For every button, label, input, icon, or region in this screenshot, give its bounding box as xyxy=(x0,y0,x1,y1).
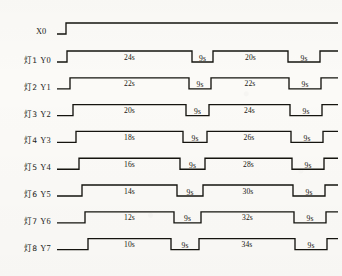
duration-y6-3: 32s xyxy=(242,213,253,222)
duration-y0-1: 24s xyxy=(124,52,135,61)
duration-y1-3: 22s xyxy=(245,79,256,88)
waveform-path-y5 xyxy=(57,185,338,196)
duration-y3-3: 26s xyxy=(244,132,255,141)
duration-y5-4: 9s xyxy=(306,187,313,196)
duration-y6-1: 12s xyxy=(124,213,135,222)
duration-y7-4: 9s xyxy=(308,241,315,250)
timing-diagram: X0 灯1Y0灯2Y1灯3Y2灯4Y3灯5Y4灯6Y5灯7Y6灯8Y7 24s9… xyxy=(0,0,342,276)
waveform-path-y6 xyxy=(57,212,338,223)
duration-y4-1: 16s xyxy=(124,159,135,168)
waveform-path-y4 xyxy=(57,158,338,169)
waveform-path-y7 xyxy=(57,239,338,250)
duration-y6-4: 9s xyxy=(307,214,314,223)
duration-y0-4: 9s xyxy=(301,53,308,62)
duration-y7-1: 10s xyxy=(124,240,135,249)
duration-y2-3: 24s xyxy=(244,106,255,115)
duration-y3-2: 9s xyxy=(192,133,199,142)
duration-y2-4: 9s xyxy=(303,107,310,116)
duration-y4-4: 9s xyxy=(305,160,312,169)
duration-y1-2: 9s xyxy=(197,80,204,89)
duration-y3-1: 18s xyxy=(124,132,135,141)
duration-y7-3: 34s xyxy=(242,240,253,249)
duration-y4-3: 28s xyxy=(243,159,254,168)
duration-y0-2: 9s xyxy=(199,53,206,62)
waveform-group xyxy=(0,0,342,276)
duration-y2-2: 9s xyxy=(194,107,201,116)
waveform-path-y0 xyxy=(57,51,338,62)
duration-y7-2: 9s xyxy=(182,241,189,250)
duration-y0-3: 20s xyxy=(245,52,256,61)
duration-y5-1: 14s xyxy=(124,186,135,195)
duration-y2-1: 20s xyxy=(124,106,135,115)
duration-y5-3: 30s xyxy=(243,186,254,195)
duration-y5-2: 9s xyxy=(187,187,194,196)
duration-y4-2: 9s xyxy=(189,160,196,169)
duration-y1-4: 9s xyxy=(302,80,309,89)
duration-y6-2: 9s xyxy=(184,214,191,223)
duration-y1-1: 22s xyxy=(124,79,135,88)
duration-y3-4: 9s xyxy=(304,133,311,142)
